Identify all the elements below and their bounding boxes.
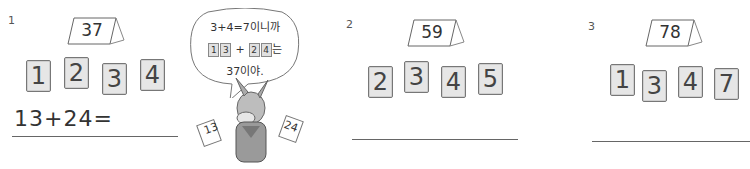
problem-number: 1 [8,14,15,27]
target-tent-card: 59 [404,18,460,46]
bubble-line-1: 3+4=7이니까 [188,18,302,34]
number-card: 2 [368,66,393,98]
bubble-line-3: 37이야. [188,62,302,78]
number-card: 4 [140,59,165,91]
problem-3: 3 78 1 3 4 7 [570,0,750,169]
plus-sign: + [235,43,244,56]
answer-expression: 13+24= [14,106,113,131]
mini-card: 4 [261,43,272,57]
mini-card: 3 [220,43,231,57]
bubble-line-2: 13 + 24는 [188,40,302,57]
problem-number: 2 [346,18,353,31]
number-card: 4 [678,66,703,98]
answer-line [592,141,750,142]
number-card: 2 [64,57,89,89]
target-number: 37 [72,20,112,40]
target-number: 78 [650,22,690,42]
number-card: 3 [102,63,127,95]
problem-2: 2 59 2 3 4 5 [330,0,530,169]
number-card: 3 [642,70,667,102]
answer-line [12,136,178,137]
number-card: 5 [478,63,503,95]
number-card: 3 [404,61,429,93]
answer-line [352,139,518,140]
mini-card: 2 [249,43,260,57]
donkey-illustration: 13 24 [196,78,306,169]
problem-number: 3 [588,20,595,33]
problem-1: 1 37 1 2 3 4 13+24= [0,0,190,169]
number-card: 7 [714,68,739,100]
bubble-suffix: 는 [272,43,282,56]
number-card: 1 [26,60,51,92]
number-card: 4 [441,66,466,98]
target-tent-card: 37 [64,16,120,44]
target-number: 59 [412,22,452,42]
number-card: 1 [610,64,635,96]
mini-card: 1 [208,43,219,57]
target-tent-card: 78 [642,18,698,46]
